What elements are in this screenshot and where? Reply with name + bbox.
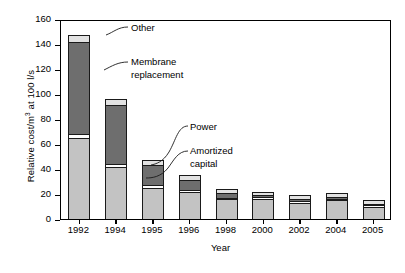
bar-segment-membrane-1994[interactable] <box>105 105 127 164</box>
y-axis-tick-label: 160 <box>35 13 51 24</box>
chart-figure: Relative cost/m3 at 100 l/s 020406080100… <box>0 0 405 273</box>
y-axis-tick: 20 <box>0 195 60 196</box>
bar-1996[interactable] <box>179 175 201 219</box>
y-axis-tick: 160 <box>0 20 60 21</box>
bar-segment-amortized-1992[interactable] <box>68 138 90 219</box>
annotation-amortized-capital: Amortized capital <box>190 145 233 170</box>
y-axis-title-pre: Relative cost/m <box>25 116 36 182</box>
bar-2000[interactable] <box>252 192 274 220</box>
bar-segment-membrane-1996[interactable] <box>179 180 201 190</box>
y-axis-tick: 140 <box>0 45 60 46</box>
bar-segment-amortized-2002[interactable] <box>289 203 311 219</box>
y-axis-tick-label: 0 <box>46 213 51 224</box>
bar-segment-membrane-1992[interactable] <box>68 42 90 135</box>
bar-segment-membrane-1995[interactable] <box>142 165 164 185</box>
annotation-other: Other <box>131 22 155 35</box>
y-axis-tick: 60 <box>0 145 60 146</box>
y-axis-title-exponent: 3 <box>24 112 31 116</box>
y-axis-tick: 120 <box>0 70 60 71</box>
bar-1998[interactable] <box>216 189 238 219</box>
bar-segment-amortized-2000[interactable] <box>252 199 274 219</box>
plot-area <box>60 20 391 220</box>
y-axis-tick: 40 <box>0 170 60 171</box>
y-axis-tick-label: 120 <box>35 63 51 74</box>
bar-segment-amortized-2005[interactable] <box>363 207 385 220</box>
bar-segment-amortized-1994[interactable] <box>105 167 127 220</box>
bar-segment-amortized-2004[interactable] <box>326 200 348 219</box>
bar-segment-amortized-1996[interactable] <box>179 192 201 220</box>
y-axis-tick-label: 40 <box>40 163 51 174</box>
bar-1994[interactable] <box>105 99 127 219</box>
y-axis-tick-mark <box>55 220 60 221</box>
bar-segment-amortized-1998[interactable] <box>216 199 238 219</box>
x-axis-title: Year <box>0 242 405 253</box>
y-axis-tick: 80 <box>0 120 60 121</box>
y-axis-tick-label: 140 <box>35 38 51 49</box>
y-axis-tick-label: 60 <box>40 138 51 149</box>
y-axis-tick: 0 <box>0 220 60 221</box>
bar-2004[interactable] <box>326 193 348 219</box>
bar-2005[interactable] <box>363 200 385 219</box>
annotation-membrane-replacement: Membrane replacement <box>131 56 183 81</box>
y-axis-tick-label: 20 <box>40 188 51 199</box>
y-axis-tick-label: 100 <box>35 88 51 99</box>
bar-1992[interactable] <box>68 35 90 219</box>
annotation-power: Power <box>190 121 217 134</box>
bar-1995[interactable] <box>142 160 164 219</box>
bar-2002[interactable] <box>289 195 311 219</box>
x-axis-title-text: Year <box>211 242 230 253</box>
bar-segment-amortized-1995[interactable] <box>142 188 164 219</box>
x-axis-tick-label-2005: 2005 <box>351 224 395 235</box>
y-axis-tick: 100 <box>0 95 60 96</box>
y-axis-title: Relative cost/m3 at 100 l/s <box>24 31 36 221</box>
y-axis-tick-label: 80 <box>40 113 51 124</box>
